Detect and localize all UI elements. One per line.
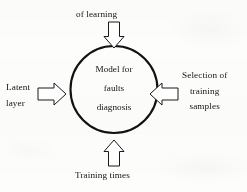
up-arrow-icon xyxy=(104,140,124,166)
center-label-line-1: Model for xyxy=(74,60,154,79)
input-label-top-line-1: of learning xyxy=(76,9,117,19)
input-label-bottom-line-1: Training times xyxy=(75,170,130,180)
input-label-left-line-1: Latent xyxy=(6,80,30,96)
input-label-left-line-2: layer xyxy=(6,96,30,112)
left-arrow-icon xyxy=(150,83,178,105)
input-label-left: Latent layer xyxy=(6,80,30,111)
right-arrow-icon xyxy=(38,83,66,105)
input-label-top: of learning xyxy=(76,7,117,23)
center-label-line-2: faults xyxy=(74,79,154,98)
input-label-right-line-1: Selection of xyxy=(182,68,227,84)
center-label: Model for faults diagnosis xyxy=(74,60,154,117)
center-label-line-3: diagnosis xyxy=(74,98,154,117)
input-label-right-line-3: samples xyxy=(182,99,227,115)
diagram-canvas: Model for faults diagnosis of learning L… xyxy=(0,0,247,192)
input-label-right: Selection of training samples xyxy=(182,68,227,115)
down-arrow-icon xyxy=(104,22,124,48)
input-label-bottom: Training times xyxy=(75,168,130,184)
input-label-right-line-2: training xyxy=(182,84,227,100)
